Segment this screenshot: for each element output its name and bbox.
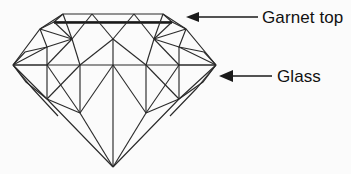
table-facet xyxy=(54,14,172,22)
garnet-top-label: Garnet top xyxy=(262,8,343,27)
diagram-canvas: Garnet top Glass xyxy=(0,0,351,174)
brilliant-cut-gem xyxy=(13,14,216,167)
girdle-ridge-left xyxy=(13,47,58,116)
glass-label: Glass xyxy=(277,67,321,86)
girdle-ridge-right xyxy=(170,47,216,116)
garnet-top-arrow-icon xyxy=(186,12,199,22)
annotation-glass: Glass xyxy=(219,67,321,86)
pavilion-outline xyxy=(13,65,216,167)
glass-arrow-icon xyxy=(219,70,233,82)
gem-diagram-svg: Garnet top Glass xyxy=(0,0,351,174)
annotation-garnet-top: Garnet top xyxy=(186,8,343,27)
